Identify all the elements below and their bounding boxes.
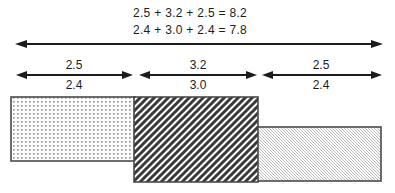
total-arrow-left-head (15, 40, 27, 48)
block-left-dot-grid (11, 97, 135, 161)
segment-3-left-head (262, 71, 273, 79)
segment-2-right-head (246, 71, 257, 79)
dimension-stackup-diagram: 2.5 + 3.2 + 2.5 = 8.2 2.4 + 3.0 + 2.4 = … (0, 0, 395, 193)
segment-1-right-head (122, 71, 133, 79)
segment-3-right-head (371, 71, 382, 79)
total-arrow-right-head (371, 40, 383, 48)
segment-3-lower-value: 2.4 (313, 78, 330, 92)
equation-lower-sum: 2.4 + 3.0 + 2.4 = 7.8 (133, 23, 247, 37)
diagram-canvas: 2.5 + 3.2 + 2.5 = 8.2 2.4 + 3.0 + 2.4 = … (0, 0, 395, 193)
segment-2-lower-value: 3.0 (190, 78, 207, 92)
total-span-arrow (15, 40, 383, 48)
segment-1-upper-value: 2.5 (66, 58, 83, 72)
segment-2-upper-value: 3.2 (190, 58, 207, 72)
equation-upper-sum: 2.5 + 3.2 + 2.5 = 8.2 (133, 6, 247, 20)
segment-1-lower-value: 2.4 (66, 78, 83, 92)
segment-3-upper-value: 2.5 (313, 58, 330, 72)
block-middle-diagonal-stripes (134, 97, 258, 182)
block-right-fine-hatch (257, 127, 381, 181)
segment-2-left-head (139, 71, 150, 79)
segment-1-left-head (16, 71, 27, 79)
